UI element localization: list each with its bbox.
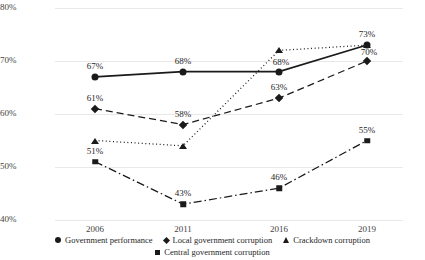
x-tick-label: 2016	[249, 224, 309, 234]
chart-legend: Government performanceLocal government c…	[0, 234, 425, 258]
y-tick-label: 60%	[0, 108, 48, 118]
data-point-circle	[276, 68, 283, 75]
legend-item-triangle[interactable]: Crackdown corruption	[283, 234, 370, 246]
series-line-triangle	[95, 45, 367, 146]
data-label: 63%	[271, 82, 288, 92]
y-tick-label: 70%	[0, 55, 48, 65]
series-line-square	[95, 141, 367, 205]
data-label: 68%	[175, 56, 192, 66]
x-tick-label: 2019	[337, 224, 397, 234]
data-point-triangle	[91, 138, 99, 144]
data-label: 67%	[87, 61, 104, 71]
data-point-square	[276, 185, 282, 191]
data-point-triangle	[179, 143, 187, 149]
legend-label: Local government corruption	[173, 234, 273, 246]
legend-item-circle[interactable]: Government performance	[55, 234, 153, 246]
circle-marker-icon	[55, 237, 61, 243]
legend-row-secondary: Central government corruption	[0, 246, 425, 258]
data-label: 58%	[175, 109, 192, 119]
data-label: 51%	[87, 146, 104, 156]
data-point-square	[180, 201, 186, 207]
data-label: 46%	[271, 172, 288, 182]
legend-item-square[interactable]: Central government corruption	[155, 246, 269, 258]
series-line-circle	[95, 45, 367, 77]
data-point-triangle	[275, 47, 283, 53]
legend-label: Government performance	[65, 234, 153, 246]
y-tick-label: 80%	[0, 2, 48, 12]
data-point-square	[92, 159, 98, 165]
data-label: 73%	[359, 29, 376, 39]
y-tick-label: 40%	[0, 214, 48, 224]
data-label: 68%	[273, 57, 290, 67]
triangle-marker-icon	[283, 237, 289, 243]
square-marker-icon	[155, 250, 160, 255]
legend-label: Central government corruption	[164, 246, 269, 258]
legend-item-diamond[interactable]: Local government corruption	[164, 234, 273, 246]
data-label: 43%	[175, 188, 192, 198]
x-tick-label: 2011	[153, 224, 213, 234]
y-tick-label: 50%	[0, 161, 48, 171]
legend-row-primary: Government performanceLocal government c…	[0, 234, 425, 246]
gridline	[55, 220, 403, 221]
data-point-circle	[180, 68, 187, 75]
legend-label: Crackdown corruption	[293, 234, 370, 246]
data-label: 70%	[361, 47, 378, 57]
x-tick-label: 2006	[65, 224, 125, 234]
data-point-circle	[92, 73, 99, 80]
diamond-marker-icon	[163, 236, 170, 243]
cropped-title-area	[0, 0, 425, 7]
plot-area: 67%68%68%73%61%58%63%70%51%43%46%55%	[55, 8, 403, 220]
data-point-square	[364, 138, 370, 144]
data-label: 61%	[87, 93, 104, 103]
series-lines	[55, 8, 403, 220]
line-chart: 67%68%68%73%61%58%63%70%51%43%46%55% 40%…	[0, 0, 425, 260]
series-line-diamond	[95, 61, 367, 125]
data-label: 55%	[359, 125, 376, 135]
